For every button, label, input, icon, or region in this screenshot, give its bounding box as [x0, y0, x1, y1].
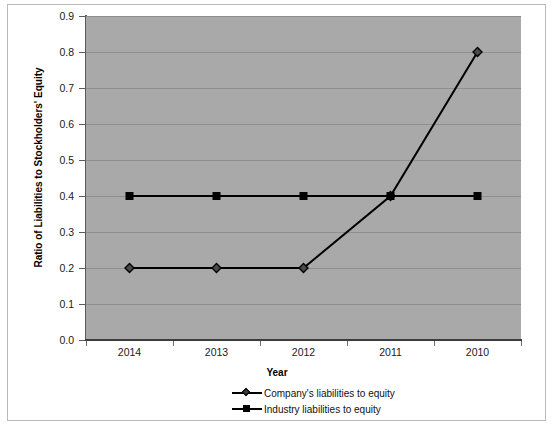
x-axis-line	[85, 339, 522, 341]
gridline	[86, 16, 521, 17]
square-marker-icon	[232, 402, 262, 416]
x-tick-label: 2013	[177, 346, 257, 358]
x-tick-mark	[347, 341, 348, 346]
chart-legend: Company's liabilities to equity Industry…	[232, 385, 395, 417]
gridline	[86, 124, 521, 125]
x-tick-mark	[434, 341, 435, 346]
x-tick-mark	[260, 341, 261, 346]
y-axis-title: Ratio of Liabilities to Stockholders' Eq…	[33, 18, 44, 318]
chart-figure: Ratio of Liabilities to Stockholders' Eq…	[0, 0, 554, 431]
y-tick-label: 0.6	[44, 118, 74, 130]
x-tick-mark	[173, 341, 174, 346]
y-tick-label: 0.1	[44, 298, 74, 310]
x-tick-mark	[521, 341, 522, 346]
y-tick-label: 0.4	[44, 190, 74, 202]
x-tick-label: 2014	[90, 346, 170, 358]
gridline	[86, 304, 521, 305]
y-tick-label: 0.0	[44, 334, 74, 346]
y-tick-label: 0.3	[44, 226, 74, 238]
y-tick-label: 0.7	[44, 82, 74, 94]
gridline	[86, 52, 521, 53]
x-tick-label: 2011	[351, 346, 431, 358]
gridline	[86, 88, 521, 89]
plot-area	[86, 16, 521, 340]
y-tick-label: 0.2	[44, 262, 74, 274]
y-tick-label: 0.9	[44, 10, 74, 22]
legend-label-company: Company's liabilities to equity	[262, 388, 395, 399]
diamond-marker-icon	[232, 386, 262, 400]
x-tick-mark	[86, 341, 87, 346]
y-tick-label: 0.8	[44, 46, 74, 58]
gridline	[86, 232, 521, 233]
legend-label-industry: Industry liabilities to equity	[262, 404, 381, 415]
x-axis-title: Year	[0, 367, 554, 378]
x-tick-label: 2012	[264, 346, 344, 358]
legend-item-industry[interactable]: Industry liabilities to equity	[232, 401, 395, 417]
gridline	[86, 196, 521, 197]
x-tick-label: 2010	[438, 346, 518, 358]
y-tick-label: 0.5	[44, 154, 74, 166]
gridline	[86, 268, 521, 269]
gridline	[86, 160, 521, 161]
legend-item-company[interactable]: Company's liabilities to equity	[232, 385, 395, 401]
